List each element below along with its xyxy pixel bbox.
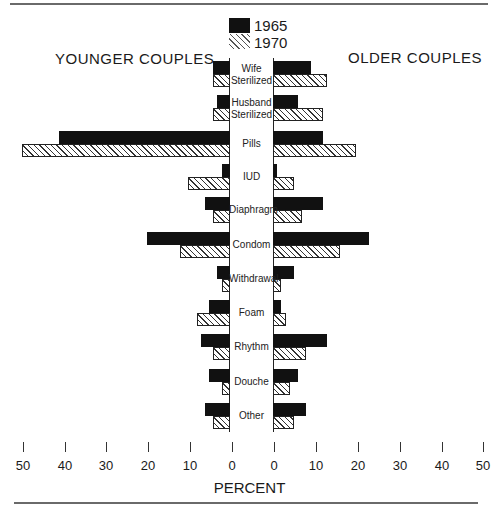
bar-older-1970 — [273, 108, 323, 121]
tick-label-left: 20 — [133, 458, 163, 473]
bar-younger-1965 — [209, 369, 230, 382]
category-label: Rhythm — [229, 341, 274, 353]
category-label-line: Pills — [229, 138, 274, 150]
bar-younger-1970 — [213, 416, 230, 429]
category-label: Foam — [229, 307, 274, 319]
category-label-line: IUD — [229, 171, 274, 183]
tick-label-right: 40 — [427, 458, 457, 473]
category-label-line: Foam — [229, 307, 274, 319]
legend-swatch-1970 — [229, 34, 250, 49]
tick-mark — [274, 442, 275, 452]
tick-label-left: 10 — [175, 458, 205, 473]
bar-older-1965 — [273, 232, 369, 245]
category-label-line: Wife — [229, 63, 274, 75]
bar-older-1965 — [273, 334, 327, 347]
tick-mark — [23, 442, 24, 452]
tick-mark — [106, 442, 107, 452]
category-label-line: Condom — [229, 239, 274, 251]
tick-mark — [316, 442, 317, 452]
bar-younger-1965 — [59, 131, 230, 144]
category-label: WifeSterilized — [229, 63, 274, 87]
bar-older-1965 — [273, 131, 323, 144]
tick-label-right: 30 — [385, 458, 415, 473]
bar-older-1965 — [273, 197, 323, 210]
bar-younger-1970 — [213, 74, 230, 87]
bar-younger-1970 — [197, 313, 230, 326]
bar-younger-1965 — [213, 61, 230, 74]
bar-younger-1970 — [22, 144, 231, 157]
bar-older-1970 — [273, 144, 356, 157]
tick-mark — [400, 442, 401, 452]
bar-younger-1970 — [180, 245, 230, 258]
category-label: Diaphragm — [229, 204, 274, 216]
category-label: IUD — [229, 171, 274, 183]
category-label-line: Rhythm — [229, 341, 274, 353]
tick-mark — [148, 442, 149, 452]
bar-younger-1970 — [213, 210, 230, 223]
bar-younger-1970 — [188, 177, 230, 190]
bar-younger-1965 — [205, 197, 230, 210]
bar-older-1970 — [273, 313, 286, 326]
category-label: Withdrawal — [229, 273, 274, 285]
bar-older-1970 — [273, 382, 290, 395]
bar-older-1970 — [273, 347, 306, 360]
legend-swatch-1965 — [229, 18, 250, 33]
category-label: Condom — [229, 239, 274, 251]
bar-younger-1970 — [213, 108, 230, 121]
category-label-line: Sterilized — [229, 109, 274, 121]
bar-younger-1965 — [147, 232, 230, 245]
category-label: Other — [229, 410, 274, 422]
tick-label-left: 30 — [91, 458, 121, 473]
category-label-line: Sterilized — [229, 75, 274, 87]
tick-label-left: 50 — [8, 458, 38, 473]
top-rule — [10, 3, 488, 5]
bar-older-1970 — [273, 74, 327, 87]
bar-older-1965 — [273, 95, 298, 108]
tick-label-left: 0 — [217, 458, 247, 473]
tick-mark — [65, 442, 66, 452]
legend-label-1965: 1965 — [254, 18, 287, 33]
tick-mark — [232, 442, 233, 452]
tick-mark — [190, 442, 191, 452]
category-label-line: Other — [229, 410, 274, 422]
bar-older-1970 — [273, 245, 340, 258]
older-couples-title: OLDER COUPLES — [348, 49, 482, 66]
bar-older-1970 — [273, 416, 294, 429]
bottom-rule — [14, 502, 478, 504]
bar-older-1965 — [273, 369, 298, 382]
bar-older-1965 — [273, 403, 306, 416]
bar-older-1970 — [273, 177, 294, 190]
category-label: Douche — [229, 376, 274, 388]
younger-couples-title: YOUNGER COUPLES — [55, 50, 214, 67]
bar-older-1965 — [273, 61, 311, 74]
bar-younger-1970 — [213, 347, 230, 360]
tick-label-right: 20 — [343, 458, 373, 473]
tick-mark — [442, 442, 443, 452]
category-label-line: Diaphragm — [229, 204, 274, 216]
category-label: HusbandSterilized — [229, 97, 274, 121]
bar-younger-1965 — [205, 403, 230, 416]
bar-younger-1965 — [201, 334, 230, 347]
bar-older-1965 — [273, 300, 281, 313]
tick-mark — [358, 442, 359, 452]
tick-label-right: 10 — [301, 458, 331, 473]
x-axis-title: PERCENT — [0, 479, 499, 496]
tick-label-right: 50 — [468, 458, 498, 473]
category-label-line: Husband — [229, 97, 274, 109]
legend-label-1970: 1970 — [254, 35, 287, 50]
category-label: Pills — [229, 138, 274, 150]
tick-label-right: 0 — [259, 458, 289, 473]
tick-mark — [483, 442, 484, 452]
category-label-line: Douche — [229, 376, 274, 388]
bar-younger-1965 — [209, 300, 230, 313]
category-label-line: Withdrawal — [229, 273, 274, 285]
tick-label-left: 40 — [50, 458, 80, 473]
